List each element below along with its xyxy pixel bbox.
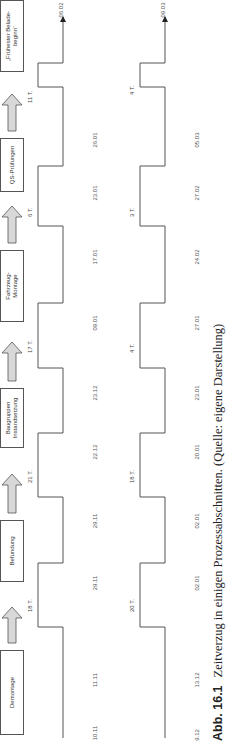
upper-date: 29.11: [92, 576, 98, 591]
upper-delay-label: 17 T.: [27, 340, 33, 353]
upper-date: 26.01: [92, 132, 98, 147]
step-box-demontage: Demontage: [0, 650, 24, 735]
upper-date: 23.01: [92, 185, 98, 200]
upper-date: 23.12: [92, 385, 98, 400]
lower-timeline: [140, 17, 165, 738]
upper-delay-label: 18 T.: [27, 599, 33, 612]
lower-delay-label: 4 T.: [129, 343, 135, 353]
lower-delay-label: 3 T.: [129, 207, 135, 217]
lower-date: 05.03: [194, 132, 200, 147]
lower-date: 27.02: [194, 185, 200, 200]
upper-date: 17.01: [92, 249, 98, 264]
lower-date: 13.12: [194, 672, 200, 687]
upper-date: 09.01: [92, 315, 98, 330]
step-box-qs-pruefungen: QS-Prüfungen: [0, 138, 24, 192]
lower-date: 23.01: [194, 385, 200, 400]
upper-date: 22.12: [92, 444, 98, 459]
step-box-befundung: Befundung: [0, 520, 24, 582]
lower-end-date: 09.03: [160, 2, 166, 17]
figure-number: Abb. 16.1: [211, 685, 225, 741]
lower-delay-label: 18 T.: [129, 470, 135, 483]
timeline-diagram: [0, 0, 230, 743]
lower-date: 27.01: [194, 315, 200, 330]
upper-date: 10.11: [92, 726, 98, 741]
step-box-fahrzeug-montage: Fahrzeug- Montage: [0, 250, 24, 322]
step-box-baugruppen: Baugruppen Instandsetzung: [0, 388, 24, 448]
upper-delay-label: 11 T.: [27, 91, 33, 103]
lower-date: 20.01: [194, 444, 200, 459]
upper-end-date: 06.02: [58, 2, 64, 17]
lower-date: 24.02: [194, 249, 200, 264]
lower-date: 02.01: [194, 575, 200, 590]
step-box-fruehester-beladebeginn: „Frühester Belade- beginn“: [0, 0, 24, 72]
upper-delay-label: 6 T.: [27, 207, 33, 217]
lower-date: 02.01: [194, 513, 200, 528]
lower-delay-label: 20 T.: [129, 599, 135, 612]
upper-delay-label: 21 T.: [27, 470, 33, 483]
process-delay-figure: Demontage Befundung Baugruppen Instandse…: [0, 0, 230, 743]
upper-date: 29.11: [92, 514, 98, 529]
upper-timeline: [38, 17, 63, 738]
lower-date: 9.12: [194, 729, 200, 741]
figure-caption-text: Zeitverzug in einigen Prozessabschnitten…: [211, 324, 225, 678]
figure-caption: Abb. 16.1Zeitverzug in einigen Prozessab…: [211, 324, 226, 741]
upper-date: 11.11: [92, 673, 98, 687]
lower-delay-label: 4 T.: [129, 85, 135, 95]
